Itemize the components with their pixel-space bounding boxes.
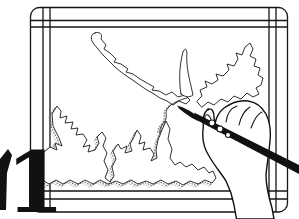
coastline-right-landmass [197,43,263,107]
hand [203,101,274,219]
coastline-lower-landmass [44,106,216,185]
fingertip-over-pen [226,133,231,138]
hand-drawing-map-illustration: 1 [0,0,299,219]
chapter-number: 1 [0,133,64,219]
numeral-one: 1 [6,133,64,219]
fingertip-over-pen [209,120,215,126]
coastline-spit [180,49,193,97]
illustration-canvas: 1 [0,0,299,219]
fingertip-over-pen [217,126,223,132]
coastline-peninsula [91,32,190,105]
hand-outline [203,101,274,219]
